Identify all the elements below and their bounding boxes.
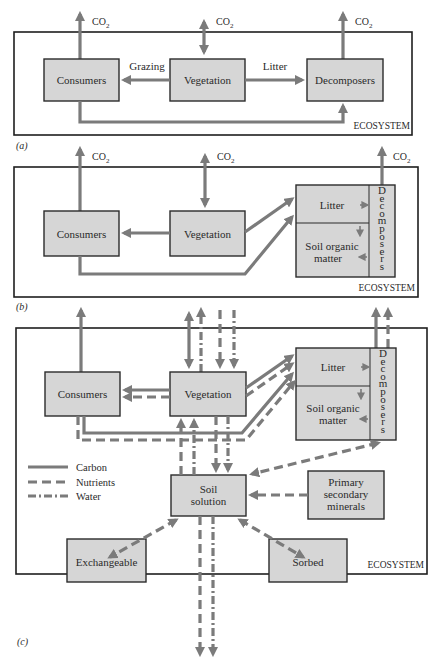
decomposers-label: Decomposers <box>315 74 375 86</box>
soil-organic-label: Soil organic <box>305 240 358 252</box>
nutrient-decomposers-soil-exchange-arrow <box>252 443 378 474</box>
exchangeable-label: Exchangeable <box>76 556 138 568</box>
minerals-label: Primary <box>328 476 364 488</box>
co2-label: CO2 <box>217 151 235 165</box>
litter-label: Litter <box>321 361 346 373</box>
soil-organic-label: Soil organic <box>306 402 359 414</box>
panel-caption: (a) <box>16 140 28 152</box>
co2-label: CO2 <box>92 16 110 30</box>
legend: Carbon Nutrients Water <box>28 462 115 502</box>
co2-label: CO2 <box>393 151 411 165</box>
co2-label: CO2 <box>92 151 110 165</box>
ecosystem-flow-diagram: ECOSYSTEM CO2 CO2 CO2 Consumers Vegetati… <box>0 0 436 662</box>
litter-label: Litter <box>320 199 345 211</box>
legend-carbon-label: Carbon <box>76 462 108 473</box>
legend-nutrients-label: Nutrients <box>76 477 115 488</box>
soil-organic-label: matter <box>319 414 347 426</box>
panel-a: ECOSYSTEM CO2 CO2 CO2 Consumers Vegetati… <box>14 14 412 152</box>
vegetation-label: Vegetation <box>184 228 232 240</box>
soil-solution-label: solution <box>191 495 227 507</box>
minerals-label: secondary <box>324 488 369 500</box>
ecosystem-label: ECOSYSTEM <box>359 283 416 293</box>
consumers-label: Consumers <box>57 228 107 240</box>
vegetation-label: Vegetation <box>184 388 232 400</box>
soil-organic-label: matter <box>314 252 342 264</box>
consumers-to-decomposers-arrow <box>80 101 343 122</box>
minerals-label: minerals <box>327 500 365 512</box>
panel-c: ECOSYSTEM Consumers Vegetation Litter So… <box>16 310 427 654</box>
panel-caption: (b) <box>16 301 28 313</box>
co2-label: CO2 <box>216 16 234 30</box>
legend-water-label: Water <box>76 491 101 502</box>
consumers-label: Consumers <box>57 74 107 86</box>
ecosystem-label: ECOSYSTEM <box>368 560 425 570</box>
grazing-label: Grazing <box>129 60 165 72</box>
panel-caption: (c) <box>17 636 29 648</box>
panel-b: ECOSYSTEM CO2 CO2 CO2 Consumers Vegetati… <box>14 149 418 313</box>
vegetation-label: Vegetation <box>184 74 232 86</box>
ecosystem-label: ECOSYSTEM <box>354 121 411 131</box>
consumers-label: Consumers <box>58 388 108 400</box>
co2-label: CO2 <box>355 16 373 30</box>
sorbed-label: Sorbed <box>292 556 324 568</box>
litter-flow-label: Litter <box>263 60 288 72</box>
soil-solution-label: Soil <box>200 483 218 495</box>
